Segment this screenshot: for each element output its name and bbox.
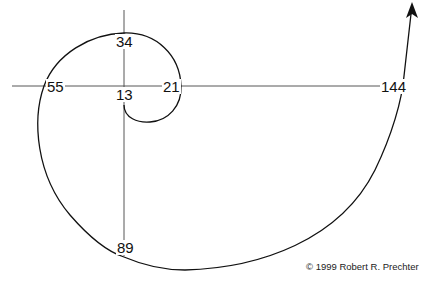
- label-34: 34: [115, 34, 134, 49]
- label-144: 144: [380, 79, 407, 94]
- label-89: 89: [116, 240, 135, 255]
- label-13: 13: [115, 87, 134, 102]
- spiral-curve: [38, 14, 411, 270]
- copyright-text: © 1999 Robert R. Prechter: [306, 261, 419, 272]
- label-55: 55: [46, 79, 65, 94]
- spiral-graphic: [0, 0, 428, 290]
- fibonacci-spiral-diagram: 13 21 34 55 89 144 © 1999 Robert R. Prec…: [0, 0, 428, 290]
- label-21: 21: [162, 79, 181, 94]
- arrowhead-icon: [406, 2, 418, 18]
